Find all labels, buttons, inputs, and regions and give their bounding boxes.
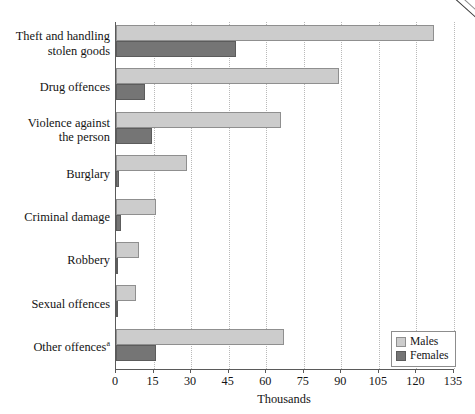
legend-label-females: Females — [410, 349, 449, 363]
bar-females — [116, 128, 152, 144]
category-label: Other offencesa — [3, 340, 115, 355]
x-axis-tick — [190, 369, 191, 373]
category-label: Robbery — [3, 253, 115, 268]
legend-item-males: Males — [396, 335, 449, 349]
legend-label-males: Males — [410, 335, 438, 349]
category-label-line: Theft and handling — [3, 29, 110, 44]
category-axis-labels: Theft and handlingstolen goodsDrug offen… — [0, 22, 115, 369]
category-label-line: Robbery — [3, 253, 110, 268]
gridline — [454, 22, 455, 369]
bar-females — [116, 215, 121, 231]
bar-males — [116, 242, 139, 258]
footnote-marker: a — [106, 339, 110, 348]
x-axis-tick-label: 30 — [170, 374, 210, 389]
bar-males — [116, 199, 156, 215]
bar-males — [116, 329, 284, 345]
x-axis-tick — [303, 369, 304, 373]
bar-males — [116, 155, 187, 171]
x-axis-tick — [115, 369, 116, 373]
x-axis-tick — [378, 369, 379, 373]
x-axis-tick — [265, 369, 266, 373]
bar-females — [116, 345, 156, 361]
bar-group — [116, 22, 454, 65]
x-axis-tick-label: 135 — [433, 374, 473, 389]
chart-legend: Males Females — [391, 331, 456, 367]
bar-group — [116, 282, 454, 325]
bar-group — [116, 109, 454, 152]
x-axis-tick — [340, 369, 341, 373]
page-corner-artifact — [449, 0, 475, 20]
category-label-line: Other offencesa — [3, 340, 110, 355]
category-label: Sexual offences — [3, 297, 115, 312]
category-label-line: Violence against — [3, 116, 110, 131]
category-label: Criminal damage — [3, 210, 115, 225]
x-axis-tick-label: 120 — [395, 374, 435, 389]
category-label: Burglary — [3, 167, 115, 182]
bar-males — [116, 25, 434, 41]
bar-females — [116, 41, 236, 57]
bar-females — [116, 301, 118, 317]
x-axis-tick-label: 75 — [283, 374, 323, 389]
plot-area — [115, 22, 454, 370]
category-label-line: Sexual offences — [3, 297, 110, 312]
x-axis-tick-label: 90 — [320, 374, 360, 389]
x-axis-tick — [153, 369, 154, 373]
x-axis-tick — [453, 369, 454, 373]
bar-group — [116, 196, 454, 239]
category-label: Theft and handlingstolen goods — [3, 29, 115, 58]
category-label-line: Criminal damage — [3, 210, 110, 225]
x-axis-tick-label: 105 — [358, 374, 398, 389]
legend-swatch-females-icon — [396, 351, 406, 361]
x-axis-tick-label: 45 — [208, 374, 248, 389]
x-axis-title: Thousands — [115, 392, 453, 407]
category-label: Drug offences — [3, 80, 115, 95]
category-label-line: Drug offences — [3, 80, 110, 95]
category-label-line: Burglary — [3, 167, 110, 182]
bar-males — [116, 68, 339, 84]
bar-group — [116, 239, 454, 282]
bar-females — [116, 258, 118, 274]
bar-females — [116, 171, 119, 187]
category-label-line: the person — [3, 130, 110, 145]
legend-swatch-males-icon — [396, 337, 406, 347]
x-axis-tick-label: 60 — [245, 374, 285, 389]
category-label: Violence againstthe person — [3, 116, 115, 145]
x-axis-tick-label: 15 — [133, 374, 173, 389]
category-label-line: stolen goods — [3, 44, 110, 59]
bar-group — [116, 152, 454, 195]
bar-males — [116, 112, 281, 128]
x-axis-tick-label: 0 — [95, 374, 135, 389]
bar-chart: Theft and handlingstolen goodsDrug offen… — [0, 0, 475, 414]
x-axis-tick — [415, 369, 416, 373]
bar-group — [116, 65, 454, 108]
x-axis-tick — [228, 369, 229, 373]
legend-item-females: Females — [396, 349, 449, 363]
bar-males — [116, 285, 136, 301]
bar-females — [116, 84, 145, 100]
